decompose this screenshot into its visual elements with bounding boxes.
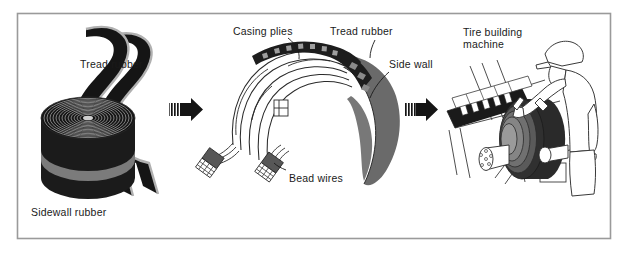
label-side-wall: Side wall [389, 58, 433, 70]
label-tire-building-machine-line2: machine [463, 38, 504, 50]
label-casing-plies: Casing plies [233, 25, 293, 37]
sidewall-rubber-coil [41, 97, 135, 199]
label-sidewall-rubber: Sidewall rubber [31, 206, 107, 218]
label-tread-rubber-raw: Tread rubber [80, 58, 143, 70]
label-tread-rubber-section: Tread rubber [330, 25, 393, 37]
tire-manufacturing-figure: Tread rubber Sidewall rubber [0, 0, 628, 254]
label-tire-building-machine-line1: Tire building [463, 26, 522, 38]
label-bead-wires: Bead wires [289, 172, 343, 184]
